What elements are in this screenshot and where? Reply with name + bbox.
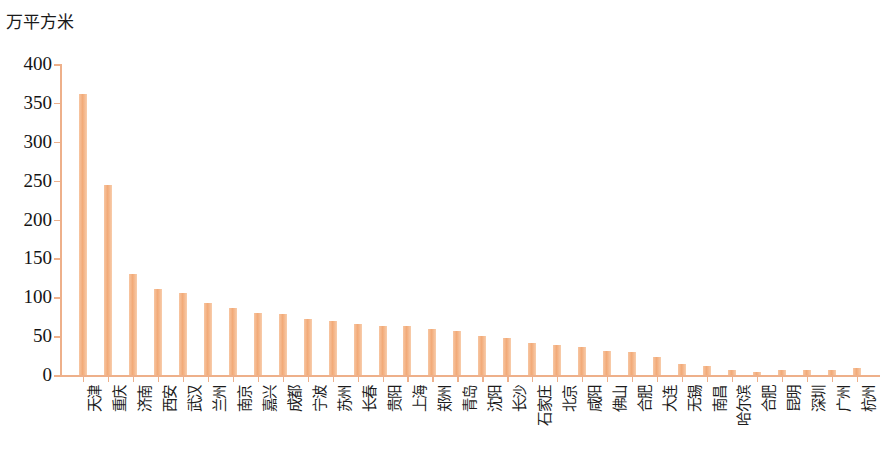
- bar: [354, 324, 362, 375]
- bar: [453, 331, 461, 375]
- bar: [553, 345, 561, 375]
- bar: [603, 351, 611, 375]
- bar: [728, 370, 736, 375]
- x-axis-category-label: 贵阳: [388, 385, 403, 412]
- y-axis-tick-label: 300: [24, 130, 53, 152]
- x-axis-tick: [83, 375, 84, 382]
- bar: [179, 293, 187, 375]
- x-axis-tick: [133, 375, 134, 382]
- bar: [229, 308, 237, 375]
- bar: [778, 370, 786, 375]
- x-axis-category-label: 佛山: [613, 385, 628, 412]
- x-axis-category-label: 上海: [413, 385, 428, 412]
- x-axis-category-label: 昆明: [787, 385, 802, 412]
- x-axis-tick: [557, 375, 558, 382]
- bar: [79, 94, 87, 375]
- x-axis-category-label: 苏州: [338, 385, 353, 412]
- bar: [104, 185, 112, 375]
- bar: [279, 314, 287, 375]
- x-axis-category-labels: 天津重庆济南西安武汉兰州南京嘉兴成都宁波苏州长春贵阳上海郑州青岛沈阳长沙石家庄北…: [60, 385, 880, 453]
- x-axis-category-label: 青岛: [463, 385, 478, 412]
- y-axis-tick-label: 200: [24, 208, 53, 230]
- x-axis-tick: [358, 375, 359, 382]
- x-axis-tick: [807, 375, 808, 382]
- x-axis-tick: [233, 375, 234, 382]
- x-axis-category-label: 南昌: [713, 385, 728, 412]
- x-axis-category-label: 南京: [238, 385, 253, 412]
- bar: [428, 329, 436, 375]
- x-axis-category-label: 沈阳: [488, 385, 503, 412]
- bar: [678, 364, 686, 375]
- x-axis-tick: [208, 375, 209, 382]
- bar: [379, 326, 387, 375]
- x-axis-category-label: 济南: [138, 385, 153, 412]
- x-axis-tick: [183, 375, 184, 382]
- bar: [304, 319, 312, 375]
- bar: [753, 372, 761, 375]
- x-axis-tick: [283, 375, 284, 382]
- x-axis-tick: [333, 375, 334, 382]
- x-axis-tick: [707, 375, 708, 382]
- x-axis-category-label: 合肥: [762, 385, 777, 412]
- bar: [653, 357, 661, 375]
- x-axis-tick: [383, 375, 384, 382]
- x-axis-tick: [158, 375, 159, 382]
- y-axis-tick-label: 100: [24, 286, 53, 308]
- bar: [803, 370, 811, 375]
- x-axis-tick: [108, 375, 109, 382]
- bar: [329, 321, 337, 375]
- bar-chart: 万平方米 400350300250200150100500 天津重庆济南西安武汉…: [0, 0, 886, 453]
- x-axis-category-label: 天津: [88, 385, 103, 412]
- x-axis-tick: [582, 375, 583, 382]
- x-axis-tick: [308, 375, 309, 382]
- x-axis-category-label: 广州: [837, 385, 852, 412]
- y-axis-tick-label: 250: [24, 169, 53, 191]
- x-axis-category-label: 北京: [563, 385, 578, 412]
- x-axis-tick: [757, 375, 758, 382]
- x-axis-category-label: 郑州: [438, 385, 453, 412]
- x-axis-category-label: 长沙: [513, 385, 528, 412]
- x-axis-category-label: 长春: [363, 385, 378, 412]
- y-axis-tick-label: 0: [43, 364, 53, 386]
- bar: [129, 274, 137, 375]
- x-axis-category-label: 咸阳: [588, 385, 603, 412]
- x-axis-tick: [258, 375, 259, 382]
- bar: [254, 313, 262, 375]
- bars-layer: [60, 64, 880, 375]
- y-axis-tick-label: 50: [33, 325, 52, 347]
- x-axis-category-label: 兰州: [213, 385, 228, 412]
- x-axis-tick: [682, 375, 683, 382]
- bar: [154, 289, 162, 375]
- x-axis-tick: [857, 375, 858, 382]
- x-axis-category-label: 无锡: [688, 385, 703, 412]
- x-axis-category-label: 大连: [663, 385, 678, 412]
- bar: [403, 326, 411, 375]
- bar: [853, 368, 861, 375]
- x-axis-category-label: 西安: [163, 385, 178, 412]
- y-axis-tick-label: 150: [24, 247, 53, 269]
- x-axis-category-label: 宁波: [313, 385, 328, 412]
- x-axis-tick: [482, 375, 483, 382]
- x-axis-tick: [532, 375, 533, 382]
- x-axis-category-label: 重庆: [113, 385, 128, 412]
- x-axis-tick: [457, 375, 458, 382]
- y-axis-unit-label: 万平方米: [6, 8, 74, 33]
- bar: [204, 303, 212, 375]
- x-axis-category-label: 嘉兴: [263, 385, 278, 412]
- y-axis-tick-labels: 400350300250200150100500: [0, 64, 52, 375]
- x-axis-tick: [607, 375, 608, 382]
- y-axis-tick-label: 400: [24, 53, 53, 75]
- bar: [628, 352, 636, 375]
- x-axis-tick: [782, 375, 783, 382]
- x-axis-tick: [732, 375, 733, 382]
- bar: [503, 338, 511, 375]
- x-axis-category-label: 石家庄: [538, 385, 553, 426]
- x-axis-category-label: 哈尔滨: [737, 385, 752, 426]
- bar: [703, 366, 711, 375]
- x-axis-category-label: 杭州: [862, 385, 877, 412]
- x-axis-tick: [432, 375, 433, 382]
- x-axis-tick: [657, 375, 658, 382]
- x-axis-tick: [832, 375, 833, 382]
- y-axis-tick-label: 350: [24, 91, 53, 113]
- x-axis-tick: [507, 375, 508, 382]
